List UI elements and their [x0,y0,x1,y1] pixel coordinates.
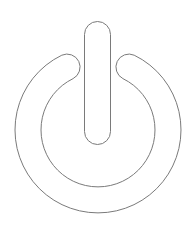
power-bar [85,22,111,145]
power-button[interactable]: Power [0,0,186,228]
power-icon [0,0,186,228]
